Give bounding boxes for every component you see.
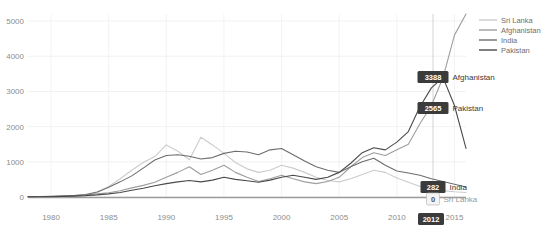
legend-label[interactable]: Sri Lanka xyxy=(501,16,534,25)
series-line-india[interactable] xyxy=(28,148,466,196)
x-tick-label: 2005 xyxy=(330,213,348,222)
callout-value: 2565 xyxy=(425,104,442,113)
series-paths[interactable] xyxy=(28,14,466,197)
y-tick-label: 3000 xyxy=(6,87,24,96)
x-tick-label: 2010 xyxy=(388,213,406,222)
chart-legend[interactable]: Sri LankaAfghanistanIndiaPakistan xyxy=(479,16,541,55)
y-tick-label: 2000 xyxy=(6,123,24,132)
callout-value: 0 xyxy=(431,195,435,204)
y-tick-label: 1000 xyxy=(6,158,24,167)
x-tick-label: 1980 xyxy=(42,213,60,222)
x-tick-label: 1995 xyxy=(215,213,233,222)
legend-label[interactable]: Pakistan xyxy=(501,46,530,55)
chart-widget: 500040003000200010000 198019851990199520… xyxy=(0,0,554,238)
y-axis-tick-labels: 500040003000200010000 xyxy=(6,17,24,202)
legend-label[interactable]: Afghanistan xyxy=(501,26,541,35)
x-tick-label: 2015 xyxy=(446,213,464,222)
callout-series-name: India xyxy=(450,183,468,192)
hover-year-badge-label: 2012 xyxy=(423,215,440,224)
y-tick-label: 0 xyxy=(20,193,25,202)
y-tick-label: 5000 xyxy=(6,17,24,26)
series-line-sri-lanka[interactable] xyxy=(28,137,466,197)
line-chart[interactable]: 500040003000200010000 198019851990199520… xyxy=(0,0,554,238)
x-tick-label: 1985 xyxy=(100,213,118,222)
callout-value: 3388 xyxy=(425,73,442,82)
callout-series-name: Afghanistan xyxy=(453,73,495,82)
legend-label[interactable]: India xyxy=(501,36,518,45)
hover-year-badge: 2012 xyxy=(418,213,444,225)
x-axis-tick-labels: 19801985199019952000200520102015 xyxy=(42,213,464,222)
callout-series-name: Pakistan xyxy=(453,104,484,113)
horizontal-gridlines xyxy=(28,21,466,197)
x-tick-label: 1990 xyxy=(157,213,175,222)
x-tick-label: 2000 xyxy=(273,213,291,222)
callout-series-name: Sri Lanka xyxy=(444,195,478,204)
callout-value: 282 xyxy=(427,183,440,192)
y-tick-label: 4000 xyxy=(6,52,24,61)
